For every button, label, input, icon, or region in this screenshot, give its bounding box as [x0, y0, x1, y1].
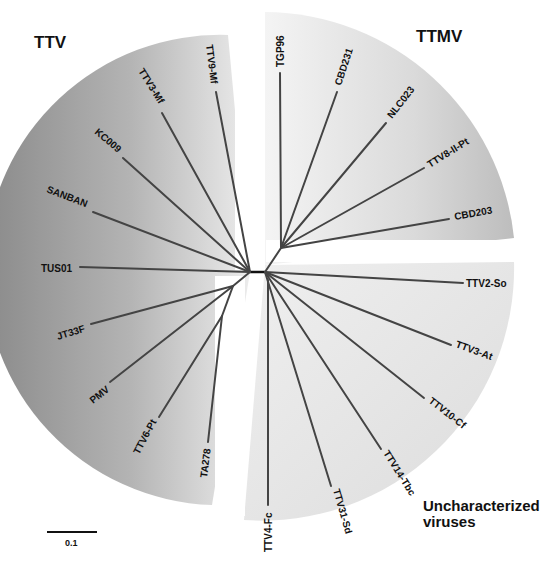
scale-bar-label: 0.1: [65, 538, 78, 548]
group-label-uncharacterized-line1: Uncharacterized: [423, 497, 540, 514]
leaf-label-tgp96: TGP96: [275, 35, 286, 67]
group-label-ttv: TTV: [34, 33, 67, 52]
group-label-ttmv: TTMV: [416, 27, 463, 46]
ttmv-sector: [265, 12, 514, 265]
leaf-label-ttv2-so: TTV2-So: [466, 278, 507, 289]
leaf-label-tus01: TUS01: [41, 263, 73, 274]
sector-gap-bottom: [215, 276, 245, 516]
group-label-uncharacterized-line2: viruses: [423, 513, 476, 530]
sector-gap-top: [235, 0, 265, 270]
leaf-label-ttv4-fc: TTV4-Fc: [263, 512, 274, 552]
phylogenetic-tree: TTV9-Mf TTV3-Mf KC009 SANBAN TUS01 JT33F…: [0, 0, 549, 577]
